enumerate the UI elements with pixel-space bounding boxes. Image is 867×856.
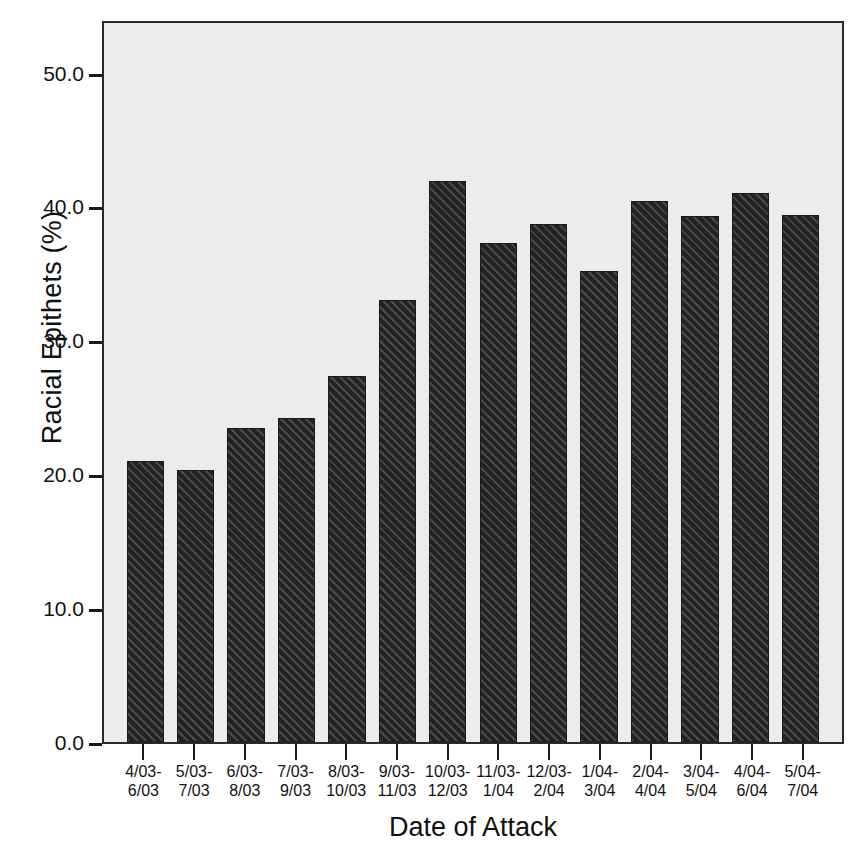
bar-slot (675, 23, 725, 742)
x-axis-tick-label: 11/03-1/04 (473, 762, 524, 800)
x-axis-tick-label: 9/03-11/03 (372, 762, 423, 800)
x-axis-tick-labels: 4/03-6/035/03-7/036/03-8/037/03-9/038/03… (102, 762, 844, 800)
x-axis-title: Date of Attack (102, 812, 844, 843)
x-axis-tick-label-line1: 7/03- (270, 762, 321, 781)
bar-slot (523, 23, 573, 742)
bar-slot (322, 23, 372, 742)
bar[interactable] (580, 271, 617, 742)
bar[interactable] (429, 181, 466, 742)
y-axis-tick: 40.0 (40, 208, 102, 209)
bar[interactable] (782, 215, 819, 742)
bar[interactable] (732, 193, 769, 742)
x-axis-tick-label: 3/04-5/04 (676, 762, 727, 800)
bar-slot (170, 23, 220, 742)
bar-slot (725, 23, 775, 742)
x-axis-tick-label-line1: 4/04- (727, 762, 778, 781)
x-axis-tick (676, 744, 727, 760)
x-axis-tick-mark (650, 744, 652, 760)
bar[interactable] (631, 201, 668, 742)
y-axis-tick: 50.0 (40, 75, 102, 76)
x-axis-tick-label-line2: 12/03 (422, 781, 473, 800)
bar-slot (423, 23, 473, 742)
y-axis-tick: 0.0 (40, 744, 102, 745)
x-axis-tick (777, 744, 828, 760)
x-axis-tick-label: 2/04-4/04 (625, 762, 676, 800)
x-axis-tick-label-line2: 6/03 (118, 781, 169, 800)
x-axis-tick-label-line1: 4/03- (118, 762, 169, 781)
x-axis-tick-label-line1: 5/03- (169, 762, 220, 781)
y-axis-tick-label: 0.0 (55, 731, 84, 755)
x-axis-tick-label-line2: 2/04 (524, 781, 575, 800)
y-axis-tick-mark (89, 74, 102, 77)
x-axis-tick-label-line1: 10/03- (422, 762, 473, 781)
x-axis-tick-label: 4/03-6/03 (118, 762, 169, 800)
x-axis-tick-label: 1/04-3/04 (574, 762, 625, 800)
bar[interactable] (177, 470, 214, 742)
x-axis-tick-label: 7/03-9/03 (270, 762, 321, 800)
x-axis-tick-mark (396, 744, 398, 760)
y-axis-tick-label: 50.0 (43, 62, 84, 86)
y-axis-tick-label: 10.0 (43, 597, 84, 621)
x-axis-tick-mark (548, 744, 550, 760)
x-axis-tick (524, 744, 575, 760)
x-axis-tick-mark (700, 744, 702, 760)
x-axis-tick-mark (599, 744, 601, 760)
x-axis-tick-label-line2: 1/04 (473, 781, 524, 800)
x-axis-tick-label-line1: 3/04- (676, 762, 727, 781)
bar[interactable] (681, 216, 718, 742)
bar-slot (624, 23, 674, 742)
x-axis-tick-label: 8/03-10/03 (321, 762, 372, 800)
bar[interactable] (480, 243, 517, 742)
x-axis-tick (574, 744, 625, 760)
bar[interactable] (379, 300, 416, 742)
x-axis-tick-label-line2: 8/03 (219, 781, 270, 800)
bar-chart-figure: Racial Epithets (%) 0.010.020.030.040.05… (0, 0, 867, 856)
y-axis-tick-mark (89, 341, 102, 344)
x-axis-tick-mark (142, 744, 144, 760)
bar[interactable] (530, 224, 567, 742)
x-axis-tick-mark (751, 744, 753, 760)
bar-slot (120, 23, 170, 742)
x-axis-tick (270, 744, 321, 760)
x-axis-tick-label: 4/04-6/04 (727, 762, 778, 800)
bar[interactable] (227, 428, 264, 742)
y-axis-tick-mark (89, 475, 102, 478)
y-axis-tick-mark (89, 207, 102, 210)
bar[interactable] (328, 376, 365, 742)
x-axis-tick (625, 744, 676, 760)
x-axis-tick-label: 12/03-2/04 (524, 762, 575, 800)
y-axis-tick: 10.0 (40, 610, 102, 611)
x-axis-tick-label-line1: 5/04- (777, 762, 828, 781)
x-axis-tick-mark (447, 744, 449, 760)
x-axis-tick (473, 744, 524, 760)
x-axis-tick-label-line1: 11/03- (473, 762, 524, 781)
bar-slot (271, 23, 321, 742)
bar-slot (574, 23, 624, 742)
x-axis-tick-label-line2: 7/03 (169, 781, 220, 800)
plot-area (102, 21, 844, 744)
x-axis-tick-label: 5/03-7/03 (169, 762, 220, 800)
bar[interactable] (127, 461, 164, 742)
x-axis-tick-label-line2: 7/04 (777, 781, 828, 800)
x-axis-tick (422, 744, 473, 760)
x-axis-tick-label-line1: 8/03- (321, 762, 372, 781)
x-axis-tick-label-line2: 9/03 (270, 781, 321, 800)
x-axis-tick-label-line1: 12/03- (524, 762, 575, 781)
x-axis-tick-label: 6/03-8/03 (219, 762, 270, 800)
y-axis-tick-mark (89, 743, 102, 746)
x-axis-tick (118, 744, 169, 760)
bar[interactable] (278, 418, 315, 742)
x-axis-tick (219, 744, 270, 760)
bar-slot (775, 23, 825, 742)
x-axis-tick (169, 744, 220, 760)
y-axis-tick-label: 40.0 (43, 195, 84, 219)
bar-series (104, 23, 842, 742)
x-axis-tick (321, 744, 372, 760)
bar-slot (372, 23, 422, 742)
x-axis-tick-label-line2: 10/03 (321, 781, 372, 800)
y-axis-tick: 30.0 (40, 342, 102, 343)
x-axis-tick-mark (497, 744, 499, 760)
y-axis-tick-mark (89, 609, 102, 612)
y-axis-tick-label: 30.0 (43, 329, 84, 353)
x-axis-tick-label-line1: 6/03- (219, 762, 270, 781)
